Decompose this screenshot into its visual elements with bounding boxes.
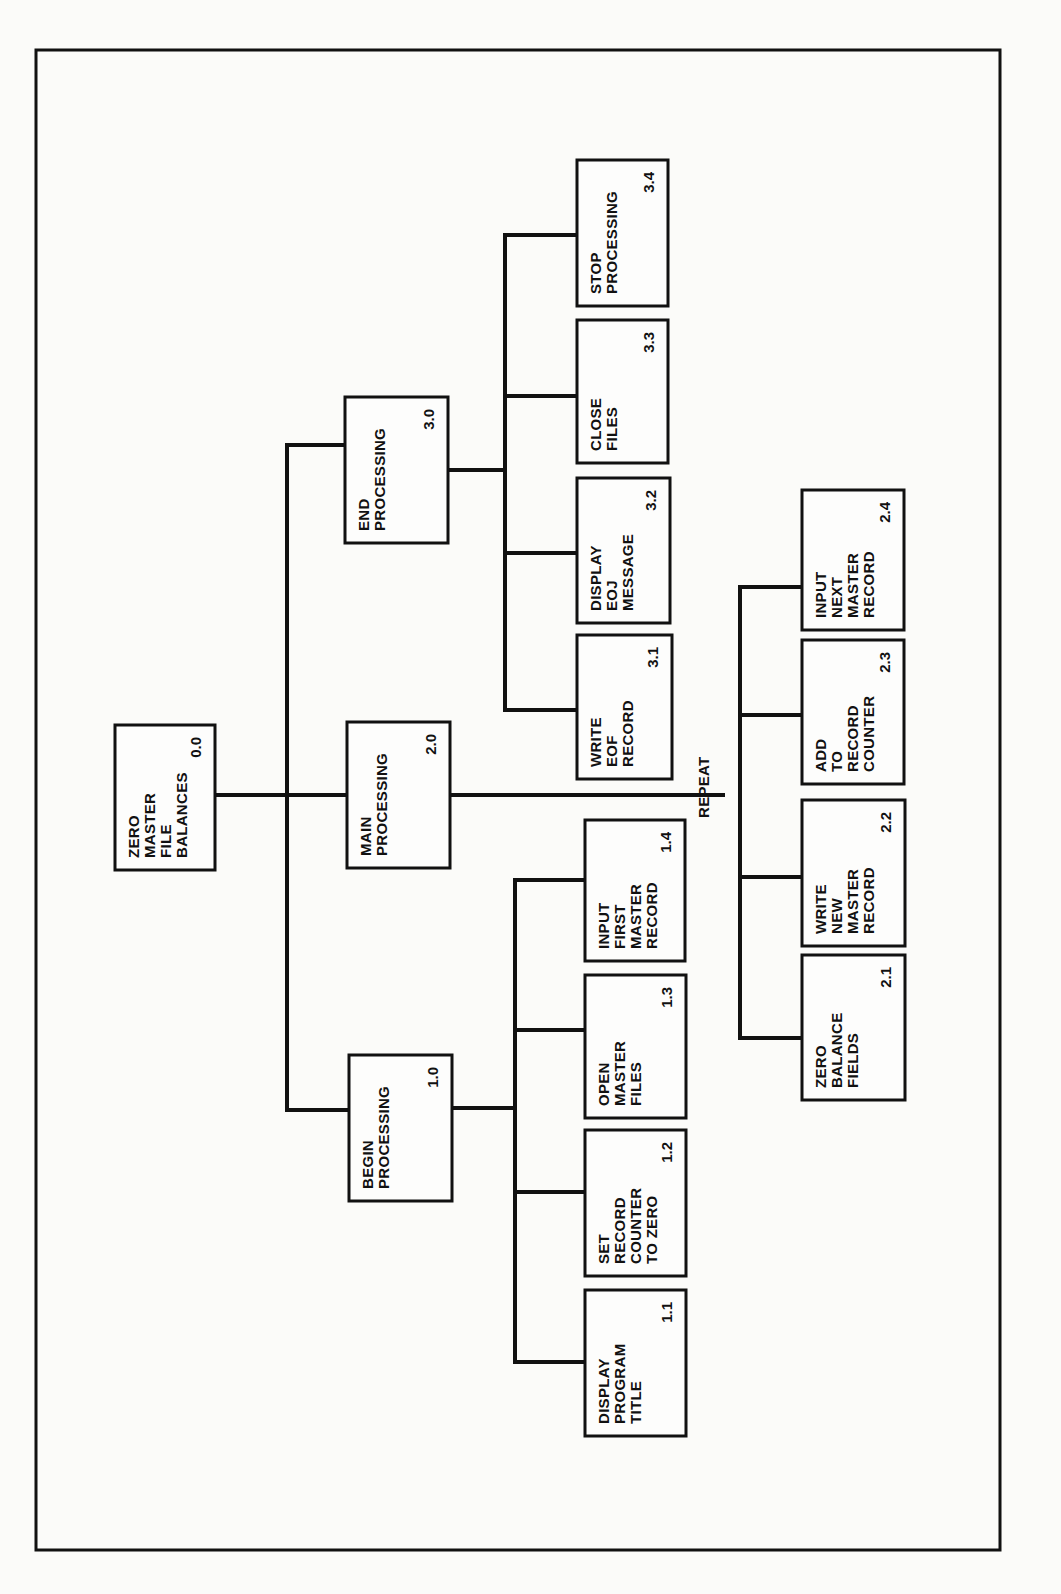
module-label-line: PROCESSING bbox=[603, 191, 620, 294]
module-box-2-0: MAINPROCESSING2.0 bbox=[347, 722, 450, 868]
module-number: 2.1 bbox=[877, 967, 894, 988]
repeat-label: REPEAT bbox=[695, 756, 712, 818]
module-number: 1.4 bbox=[657, 831, 674, 853]
module-number: 1.2 bbox=[658, 1142, 675, 1163]
module-number: 3.3 bbox=[640, 332, 657, 353]
module-label-line: CLOSE bbox=[587, 398, 604, 451]
module-label-line: RECORD bbox=[619, 700, 636, 767]
module-label-line: TITLE bbox=[627, 1381, 644, 1424]
module-label-line: DISPLAY bbox=[595, 1358, 612, 1424]
module-label-line: END bbox=[355, 498, 372, 531]
module-label-line: RECORD bbox=[611, 1197, 628, 1264]
module-label-line: STOP bbox=[587, 252, 604, 294]
module-label-line: FILES bbox=[603, 407, 620, 451]
module-label-line: PROCESSING bbox=[375, 1086, 392, 1189]
module-label-line: MASTER bbox=[844, 553, 861, 618]
module-box-2-4: INPUTNEXTMASTERRECORD2.4 bbox=[802, 490, 904, 630]
module-label-line: BEGIN bbox=[359, 1140, 376, 1189]
module-label-line: NEW bbox=[828, 898, 845, 934]
module-label-line: RECORD bbox=[643, 882, 660, 949]
module-label-line: MASTER bbox=[844, 869, 861, 934]
module-label-line: ZERO bbox=[812, 1045, 829, 1088]
module-label-line: WRITE bbox=[587, 717, 604, 767]
module-label-line: BALANCE bbox=[828, 1013, 845, 1088]
module-label-line: BALANCES bbox=[173, 772, 190, 858]
module-label-line: ADD bbox=[812, 739, 829, 772]
module-label-line: RECORD bbox=[860, 867, 877, 934]
module-label-line: SET bbox=[595, 1234, 612, 1264]
module-label-line: EOF bbox=[603, 735, 620, 767]
module-number: 1.1 bbox=[658, 1302, 675, 1323]
module-box-2-1: ZEROBALANCEFIELDS2.1 bbox=[802, 955, 905, 1100]
module-number: 3.1 bbox=[644, 647, 661, 668]
module-label-line: EOJ bbox=[603, 580, 620, 611]
module-label-line: DISPLAY bbox=[587, 545, 604, 611]
module-box-0-0: ZEROMASTERFILEBALANCES0.0 bbox=[115, 725, 215, 870]
module-label-line: FILE bbox=[157, 824, 174, 858]
hierarchy-chart: ZEROMASTERFILEBALANCES0.0BEGINPROCESSING… bbox=[0, 0, 1061, 1594]
module-label-line: OPEN bbox=[595, 1062, 612, 1106]
module-number: 3.4 bbox=[640, 171, 657, 193]
module-label-line: PROGRAM bbox=[611, 1344, 628, 1424]
module-number: 2.2 bbox=[877, 812, 894, 833]
module-label-line: MESSAGE bbox=[619, 534, 636, 611]
module-number: 3.2 bbox=[642, 490, 659, 511]
module-label-line: ZERO bbox=[125, 815, 142, 858]
module-label-line: FIELDS bbox=[844, 1033, 861, 1088]
module-box-3-0: ENDPROCESSING3.0 bbox=[345, 397, 448, 543]
module-label-line: FILES bbox=[627, 1062, 644, 1106]
module-label-line: INPUT bbox=[595, 903, 612, 950]
module-label-line: COUNTER bbox=[860, 696, 877, 772]
module-box-2-3: ADDTORECORDCOUNTER2.3 bbox=[802, 640, 904, 784]
module-label-line: NEXT bbox=[828, 577, 845, 618]
module-label-line: MASTER bbox=[627, 884, 644, 949]
module-number: 2.0 bbox=[422, 734, 439, 755]
module-number: 1.0 bbox=[424, 1067, 441, 1088]
module-number: 3.0 bbox=[420, 409, 437, 430]
module-number: 0.0 bbox=[187, 737, 204, 758]
module-box-3-3: CLOSEFILES3.3 bbox=[577, 320, 668, 463]
module-box-1-1: DISPLAYPROGRAMTITLE1.1 bbox=[585, 1290, 686, 1436]
module-label-line: TO ZERO bbox=[643, 1195, 660, 1264]
module-label-line: MAIN bbox=[357, 816, 374, 856]
module-label-line: RECORD bbox=[860, 551, 877, 618]
module-box-1-0: BEGINPROCESSING1.0 bbox=[349, 1055, 452, 1201]
module-box-1-4: INPUTFIRSTMASTERRECORD1.4 bbox=[585, 820, 685, 961]
module-label-line: COUNTER bbox=[627, 1188, 644, 1264]
module-label-line: MASTER bbox=[611, 1041, 628, 1106]
module-label-line: RECORD bbox=[844, 705, 861, 772]
module-label-line: PROCESSING bbox=[373, 753, 390, 856]
module-label-line: TO bbox=[828, 751, 845, 772]
module-label-line: MASTER bbox=[141, 793, 158, 858]
connectors bbox=[215, 235, 802, 1364]
module-box-1-2: SETRECORDCOUNTERTO ZERO1.2 bbox=[585, 1130, 686, 1276]
module-box-3-1: WRITEEOFRECORD3.1 bbox=[577, 635, 672, 779]
module-label-line: INPUT bbox=[812, 572, 829, 619]
module-number: 2.3 bbox=[876, 652, 893, 673]
module-label-line: FIRST bbox=[611, 904, 628, 949]
module-label-line: WRITE bbox=[812, 884, 829, 934]
module-label-line: PROCESSING bbox=[371, 428, 388, 531]
module-box-3-4: STOPPROCESSING3.4 bbox=[577, 160, 668, 306]
module-number: 2.4 bbox=[876, 501, 893, 523]
module-box-1-3: OPENMASTERFILES1.3 bbox=[585, 975, 686, 1118]
module-box-2-2: WRITENEWMASTERRECORD2.2 bbox=[802, 800, 905, 946]
module-number: 1.3 bbox=[658, 987, 675, 1008]
module-box-3-2: DISPLAYEOJMESSAGE3.2 bbox=[577, 478, 670, 623]
